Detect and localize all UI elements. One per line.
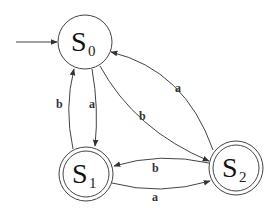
edge-s1-s0-b — [69, 69, 74, 149]
state-letter: S — [222, 152, 238, 183]
edge-label-s1-s0: b — [56, 97, 63, 111]
edge-s1-s2-a — [112, 181, 210, 189]
state-letter: S — [72, 158, 88, 189]
state-subscript: 1 — [89, 175, 97, 191]
edge-label-s0-s2: b — [139, 109, 146, 123]
edge-s0-s2-b — [100, 66, 209, 161]
edge-label-s2-s1: b — [152, 161, 159, 175]
state-diagram: a b b a b a S 0 S 1 S 2 — [0, 0, 277, 212]
edge-label-s2-s0: a — [175, 81, 181, 95]
state-letter: S — [71, 26, 87, 57]
edge-s2-s1-b — [114, 158, 209, 166]
state-subscript: 2 — [239, 169, 247, 185]
state-subscript: 0 — [88, 43, 96, 59]
edge-label-s0-s1: a — [89, 97, 95, 111]
state-s0: S 0 — [58, 15, 112, 69]
state-s1: S 1 — [59, 147, 113, 201]
edge-label-s1-s2: a — [152, 190, 158, 204]
state-s2: S 2 — [209, 141, 263, 195]
